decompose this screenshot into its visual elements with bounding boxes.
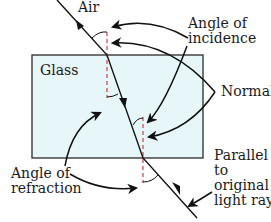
label-angle-of-refraction-1: Angle of — [11, 166, 70, 181]
label-angle-of-incidence-2: incidence — [188, 31, 256, 46]
pointer-parallel — [189, 192, 212, 206]
ray-arrow-exit-icon — [172, 182, 180, 195]
label-glass: Glass — [40, 63, 78, 78]
pointer-incidence-1 — [113, 23, 188, 38]
label-normal: Normal — [221, 84, 271, 99]
label-angle-of-incidence-1: Angle of — [188, 16, 247, 31]
label-parallel-1: Parallel — [214, 148, 268, 163]
label-air: Air — [78, 0, 99, 15]
angle-arc-refraction-exit — [143, 175, 158, 182]
angle-arc-incidence — [92, 32, 107, 38]
label-parallel-2: to — [214, 163, 228, 178]
label-parallel-3: original — [214, 178, 269, 193]
label-angle-of-refraction-2: refraction — [11, 181, 82, 196]
refraction-diagram: Air Glass Angle of incidence Normal Angl… — [0, 0, 271, 222]
label-parallel-4: light ray. — [214, 193, 271, 208]
